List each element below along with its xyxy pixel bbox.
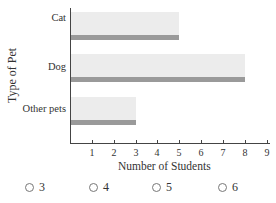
category-label-other-pets: Other pets xyxy=(2,103,66,114)
answer-option-label: 3 xyxy=(39,180,45,195)
x-tick xyxy=(245,140,246,144)
x-tick xyxy=(157,140,158,144)
radio-button-icon[interactable] xyxy=(152,183,161,192)
bar-shadow xyxy=(71,120,136,125)
x-tick-label: 7 xyxy=(216,147,230,158)
x-tick-label: 8 xyxy=(238,147,252,158)
y-axis-line xyxy=(70,8,71,144)
answer-option-3[interactable]: 3 xyxy=(25,180,45,195)
radio-button-icon[interactable] xyxy=(25,183,34,192)
x-axis-title: Number of Students xyxy=(118,160,211,172)
answer-option-6[interactable]: 6 xyxy=(218,180,238,195)
bar-face xyxy=(71,97,136,120)
bar-cat xyxy=(71,12,179,40)
answer-option-label: 5 xyxy=(166,180,172,195)
x-tick xyxy=(136,140,137,144)
answer-option-5[interactable]: 5 xyxy=(152,180,172,195)
x-tick xyxy=(267,140,268,144)
x-tick-label: 5 xyxy=(172,147,186,158)
answer-option-label: 6 xyxy=(232,180,238,195)
radio-button-icon[interactable] xyxy=(89,183,98,192)
bar-face xyxy=(71,12,179,35)
x-tick-label: 9 xyxy=(260,147,274,158)
bar-other-pets xyxy=(71,97,136,125)
x-tick xyxy=(114,140,115,144)
x-tick-label: 2 xyxy=(107,147,121,158)
answer-option-label: 4 xyxy=(103,180,109,195)
x-axis-line xyxy=(70,143,270,144)
x-tick-label: 6 xyxy=(194,147,208,158)
x-tick xyxy=(223,140,224,144)
bar-shadow xyxy=(71,77,245,82)
x-tick xyxy=(179,140,180,144)
x-tick xyxy=(92,140,93,144)
x-tick xyxy=(201,140,202,144)
radio-button-icon[interactable] xyxy=(218,183,227,192)
x-tick-label: 4 xyxy=(150,147,164,158)
answer-option-4[interactable]: 4 xyxy=(89,180,109,195)
x-tick-label: 1 xyxy=(85,147,99,158)
x-tick-label: 3 xyxy=(129,147,143,158)
bar-dog xyxy=(71,54,245,82)
bar-face xyxy=(71,54,245,77)
category-label-cat: Cat xyxy=(2,12,66,23)
bar-shadow xyxy=(71,35,179,40)
category-label-dog: Dog xyxy=(2,61,66,72)
